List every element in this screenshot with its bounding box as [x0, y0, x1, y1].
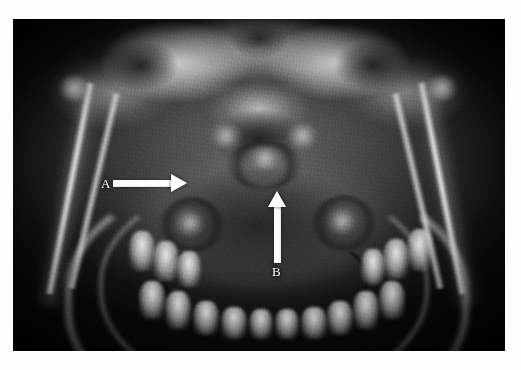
- annotation-label-a: A: [101, 177, 110, 190]
- vignette-layer: [13, 19, 505, 351]
- annotation-label-b: B: [272, 265, 281, 278]
- arrow-b-shaft: [274, 205, 281, 263]
- arrow-up-icon: [268, 191, 286, 207]
- figure-root: A B: [0, 0, 521, 370]
- arrow-right-icon: [171, 174, 187, 192]
- arrow-a-shaft: [113, 180, 175, 187]
- caption-strip: [0, 356, 521, 370]
- radiograph-image: A B: [13, 19, 505, 351]
